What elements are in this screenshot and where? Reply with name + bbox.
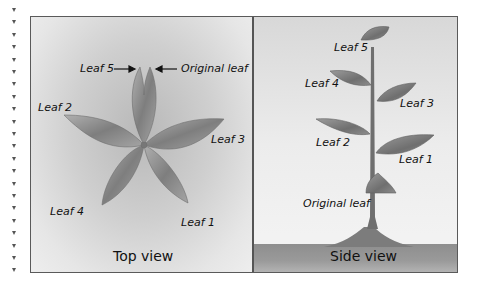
margin-marker-icon — [12, 268, 16, 272]
margin-marker-icon — [12, 157, 16, 161]
margin-marker-icon — [12, 206, 16, 210]
top-leaf5-label: Leaf 5 — [80, 62, 114, 75]
margin-marker-icon — [12, 45, 16, 49]
stem-center — [141, 142, 147, 148]
side-view-title: Side view — [330, 248, 397, 264]
top-view-title: Top view — [113, 248, 173, 264]
margin-marker-icon — [12, 95, 16, 99]
soil-mound — [324, 227, 414, 247]
arrow-to-leaf-5-icon — [129, 66, 135, 72]
arrow-to-original-leaf-icon — [156, 66, 162, 72]
leaf-1 — [144, 145, 188, 203]
margin-marker-icon — [12, 120, 16, 124]
top-leaf3-label: Leaf 3 — [211, 133, 245, 146]
side-view-panel: Leaf 5 Leaf 4 Leaf 3 Leaf 2 Leaf 1 Origi… — [254, 17, 457, 272]
top-original-leaf-label: Original leaf — [181, 62, 248, 75]
margin-marker-icon — [12, 132, 16, 136]
margin-marker-icon — [12, 70, 16, 74]
margin-marker-icon — [12, 144, 16, 148]
side-leaf-2 — [316, 119, 370, 135]
diagram-frame: Leaf 5 Original leaf Leaf 2 Leaf 3 Leaf … — [30, 16, 458, 273]
top-view-panel: Leaf 5 Original leaf Leaf 2 Leaf 3 Leaf … — [31, 17, 253, 272]
margin-marker-icon — [12, 20, 16, 24]
side-leaf-5 — [361, 27, 389, 41]
side-original-leaf-label: Original leaf — [303, 197, 370, 210]
side-leaf1-label: Leaf 1 — [399, 153, 433, 166]
margin-marker-icon — [12, 82, 16, 86]
leaf-2 — [64, 115, 144, 147]
top-leaf4-label: Leaf 4 — [50, 205, 84, 218]
side-leaf-1 — [376, 135, 434, 154]
margin-marker-icon — [12, 244, 16, 248]
top-leaf1-label: Leaf 1 — [181, 216, 215, 229]
margin-marker-icon — [12, 231, 16, 235]
side-leaf5-label: Leaf 5 — [334, 41, 368, 54]
margin-marker-icon — [12, 8, 16, 12]
margin-marker-icon — [12, 182, 16, 186]
leaf-5-original-leaf — [132, 67, 156, 145]
margin-marker-icon — [12, 33, 16, 37]
leaf-4 — [102, 145, 144, 205]
top-leaf2-label: Leaf 2 — [38, 101, 72, 114]
margin-marker-icon — [12, 219, 16, 223]
margin-marker-icon — [12, 107, 16, 111]
margin-marker-icon — [12, 169, 16, 173]
left-margin-markers — [12, 8, 18, 284]
margin-marker-icon — [12, 58, 16, 62]
margin-marker-icon — [12, 256, 16, 260]
margin-marker-icon — [12, 194, 16, 198]
side-leaf2-label: Leaf 2 — [316, 136, 350, 149]
side-leaf3-label: Leaf 3 — [400, 97, 434, 110]
side-view-plant-illustration — [254, 17, 457, 272]
side-leaf4-label: Leaf 4 — [305, 77, 339, 90]
